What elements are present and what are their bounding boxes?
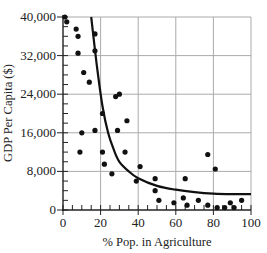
data-point	[213, 166, 218, 171]
data-point	[231, 205, 236, 210]
data-point	[75, 34, 80, 39]
data-point	[228, 200, 233, 205]
data-point	[196, 198, 201, 203]
y-tick-label: 0	[50, 202, 57, 217]
y-tick-label: 24,000	[20, 86, 56, 101]
data-point	[100, 150, 105, 155]
trend-curve	[91, 17, 251, 194]
x-tick-label: 40	[132, 215, 145, 230]
data-point	[134, 178, 139, 183]
y-tick-label: 40,000	[20, 9, 56, 24]
data-point	[205, 152, 210, 157]
data-point	[137, 164, 142, 169]
data-point	[92, 31, 97, 36]
data-point	[75, 51, 80, 56]
data-point	[222, 205, 227, 210]
data-point	[100, 111, 105, 116]
y-tick-label: 8,000	[27, 163, 56, 178]
y-axis-title: GDP Per Capita ($)	[1, 64, 15, 162]
x-tick-label: 100	[241, 215, 261, 230]
x-axis-title: % Pop. in Agriculture	[102, 235, 211, 249]
x-tick-label: 60	[169, 215, 182, 230]
data-point	[92, 128, 97, 133]
data-point	[124, 118, 129, 123]
data-point	[156, 198, 161, 203]
data-points	[62, 14, 244, 210]
y-axis-ticks: 08,00016,00024,00032,00040,000	[20, 9, 68, 217]
data-point	[153, 176, 158, 181]
data-point	[81, 70, 86, 75]
data-point	[184, 203, 189, 208]
data-point	[62, 14, 67, 19]
y-tick-label: 16,000	[20, 125, 56, 140]
data-point	[115, 128, 120, 133]
data-point	[215, 205, 220, 210]
grid-lines	[63, 17, 251, 210]
data-point	[79, 130, 84, 135]
data-point	[74, 26, 79, 31]
scatter-chart: 08,00016,00024,00032,00040,000 020406080…	[0, 0, 267, 253]
data-point	[171, 200, 176, 205]
data-point	[102, 162, 107, 167]
data-point	[239, 198, 244, 203]
data-point	[109, 171, 114, 176]
data-point	[181, 195, 186, 200]
x-tick-label: 0	[60, 215, 67, 230]
data-point	[205, 203, 210, 208]
data-point	[117, 92, 122, 97]
data-point	[77, 150, 82, 155]
x-tick-label: 80	[207, 215, 220, 230]
data-point	[64, 19, 69, 24]
data-point	[87, 80, 92, 85]
axes	[62, 15, 251, 211]
data-point	[92, 48, 97, 53]
data-point	[183, 176, 188, 181]
x-tick-label: 20	[94, 215, 107, 230]
data-point	[153, 188, 158, 193]
x-axis-ticks: 020406080100	[60, 205, 261, 230]
y-tick-label: 32,000	[20, 48, 56, 63]
data-point	[122, 150, 127, 155]
